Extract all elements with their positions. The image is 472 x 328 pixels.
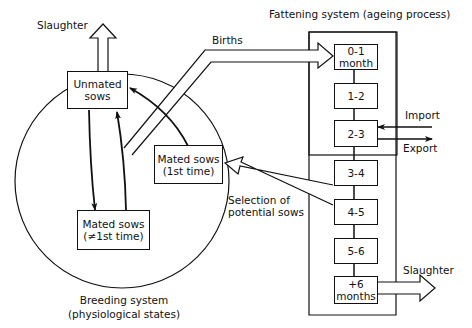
stage-label: 4-5 — [347, 206, 364, 218]
stage-0-1-month: 0-1 month — [334, 44, 378, 70]
diagram-graphics — [0, 0, 472, 328]
stage-5-6: 5-6 — [334, 238, 378, 264]
stage-2-3: 2-3 — [334, 120, 378, 147]
stage-label: 5-6 — [347, 245, 364, 257]
slaughter-fattening-label: Slaughter — [403, 264, 454, 277]
state-mated-sows-first-time: Mated sows (1st time) — [154, 145, 223, 184]
slaughter-fattening-arrow — [377, 275, 435, 301]
state-label-line1: Mated sows — [82, 218, 144, 230]
slaughter-breeding-arrow — [90, 24, 116, 72]
stage-label: 3-4 — [347, 167, 364, 179]
pig-population-diagram: Fattening system (ageing process) Slaugh… — [0, 0, 472, 328]
stage-label-line1: +6 — [348, 278, 363, 290]
state-label-line2: (1st time) — [163, 165, 215, 177]
transition-unmated-to-mated-not-first — [89, 110, 95, 210]
breeding-system-title: Breeding system (physiological states) — [68, 293, 180, 321]
stage-label-line2: month — [339, 57, 373, 69]
state-label-line2: sows — [85, 90, 111, 102]
import-label: Import — [405, 109, 440, 122]
state-mated-sows-not-first-time: Mated sows (≠1st time) — [77, 210, 150, 250]
stage-label-line1: 0-1 — [347, 45, 364, 57]
selection-label-line1: Selection of — [228, 194, 304, 206]
state-label-line1: Mated sows — [157, 153, 219, 165]
state-unmated-sows: Unmated sows — [67, 71, 128, 109]
births-arrow — [124, 43, 333, 155]
state-label-line2: (≠1st time) — [83, 230, 143, 242]
selection-label: Selection of potential sows — [228, 194, 304, 218]
stage-1-2: 1-2 — [334, 83, 378, 109]
breeding-system-title-line2: (physiological states) — [68, 307, 180, 321]
stage-4-5: 4-5 — [334, 199, 378, 225]
stage-over-6-months: +6 months — [334, 276, 378, 304]
breeding-system-title-line1: Breeding system — [68, 293, 180, 307]
stage-label: 1-2 — [347, 90, 364, 102]
export-label: Export — [403, 142, 437, 155]
stage-label-line2: months — [336, 290, 376, 302]
stage-label: 2-3 — [347, 128, 364, 140]
transition-mated-not-first-to-unmated — [117, 112, 126, 210]
fattening-system-title: Fattening system (ageing process) — [269, 8, 450, 21]
stage-3-4: 3-4 — [334, 160, 378, 186]
births-label: Births — [212, 34, 243, 47]
slaughter-breeding-label: Slaughter — [37, 19, 88, 32]
state-label-line1: Unmated — [73, 78, 121, 90]
selection-label-line2: potential sows — [228, 206, 304, 218]
